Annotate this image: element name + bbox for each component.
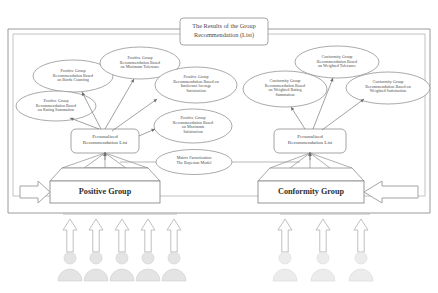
person-icon — [58, 252, 82, 281]
positive-member-icons — [58, 252, 186, 281]
title-box — [180, 18, 268, 45]
ellipse-weighted-rating-summation — [243, 71, 327, 107]
person-icon — [136, 252, 160, 281]
person-icon — [349, 252, 373, 281]
box-positive-personalized-list — [71, 129, 139, 153]
conformity-group-box — [258, 168, 364, 203]
positive-group-box — [50, 168, 160, 203]
positive-member-arrows — [63, 219, 181, 252]
conformity-feedback-arrow — [364, 181, 418, 203]
positive-feedback-arrow — [20, 181, 50, 203]
person-icon — [162, 252, 186, 281]
person-icon — [110, 252, 134, 281]
conformity-method-ellipses — [243, 46, 430, 107]
diagram-vector-layer — [0, 0, 438, 293]
box-conformity-personalized-list — [274, 129, 346, 153]
ellipse-weighted-satisfaction — [346, 72, 430, 104]
model-ellipse — [156, 150, 232, 175]
person-icon — [273, 252, 297, 281]
conformity-group-to-list-lines — [270, 153, 352, 168]
person-icon — [311, 252, 335, 281]
person-icon — [84, 252, 108, 281]
diagram-canvas: The Results of the Group Recommendation … — [0, 0, 438, 293]
conformity-member-arrows — [278, 219, 368, 252]
conformity-member-icons — [273, 252, 373, 281]
ellipse-intolerant-avg-sat — [155, 67, 237, 103]
ellipse-maximum-satisfaction — [154, 109, 232, 143]
ellipse-weighted-tolerance — [295, 46, 379, 78]
